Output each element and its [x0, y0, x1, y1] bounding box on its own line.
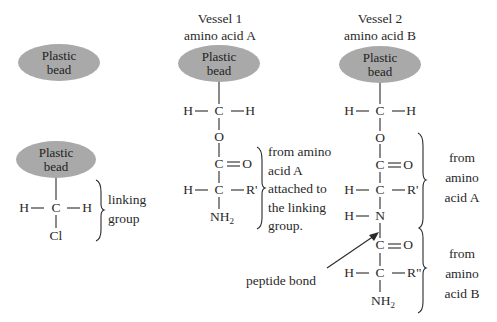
peptide-bond-label: peptide bond	[246, 271, 316, 290]
atom-c: C	[51, 201, 60, 215]
amine-group: NH2	[210, 210, 234, 224]
atom-c: C	[375, 266, 384, 280]
atom-h: H	[183, 183, 193, 197]
atom-h: H	[344, 209, 354, 223]
bead-label-line2: bead	[368, 65, 393, 79]
atom-c: C	[214, 157, 223, 171]
from-amino-acid-b-label: from amino acid B	[445, 244, 480, 304]
atom-h: H	[344, 266, 354, 280]
atom-h: H	[245, 104, 255, 118]
atom-h: H	[344, 104, 354, 118]
atom-cl: Cl	[50, 229, 63, 243]
plastic-bead-1: Plastic bead	[18, 44, 100, 81]
atom-c: C	[214, 183, 223, 197]
atom-h: H	[406, 104, 416, 118]
atom-o: O	[242, 157, 252, 171]
bead-label-line1: Plastic	[39, 146, 74, 160]
from-amino-acid-a-label: from amino acid A	[445, 148, 480, 208]
atom-h: H	[344, 183, 354, 197]
solid-phase-peptide-synthesis-diagram: Plastic bead Plastic bead H C H Cl linki…	[0, 0, 497, 322]
atom-c: C	[375, 158, 384, 172]
linking-group-label: linking group	[108, 190, 146, 228]
plastic-bead-vessel-1: Plastic bead	[178, 45, 260, 82]
arrow-icon	[374, 232, 375, 233]
atom-o: O	[403, 158, 413, 172]
side-chain-r-prime: R'	[407, 183, 418, 197]
atom-c: C	[214, 104, 223, 118]
atom-n: N	[375, 209, 385, 223]
atom-h: H	[19, 201, 29, 215]
bead-label-line1: Plastic	[202, 50, 237, 64]
atom-h: H	[183, 104, 193, 118]
plastic-bead-2: Plastic bead	[16, 141, 96, 178]
amino-acid-a-attached-label: from amino acid A attached to the linkin…	[268, 143, 331, 236]
bead-label-line1: Plastic	[363, 51, 398, 65]
bead-label-line1: Plastic	[42, 49, 77, 63]
atom-o: O	[214, 130, 224, 144]
vessel-2-title: Vessel 2 amino acid B	[344, 10, 416, 44]
bead-label-line2: bead	[44, 160, 69, 174]
atom-c: C	[375, 104, 384, 118]
plastic-bead-vessel-2: Plastic bead	[339, 46, 421, 83]
amine-group: NH2	[371, 294, 395, 308]
bead-label-line2: bead	[207, 64, 232, 78]
atom-c: C	[375, 183, 384, 197]
side-chain-r-prime: R'	[246, 183, 257, 197]
atom-o: O	[375, 131, 385, 145]
atom-c: C	[375, 238, 384, 252]
atom-h: H	[82, 201, 92, 215]
bead-label-line2: bead	[47, 63, 72, 77]
side-chain-r-double-prime: R"	[407, 266, 422, 280]
atom-o: O	[403, 238, 413, 252]
vessel-1-title: Vessel 1 amino acid A	[184, 10, 256, 44]
